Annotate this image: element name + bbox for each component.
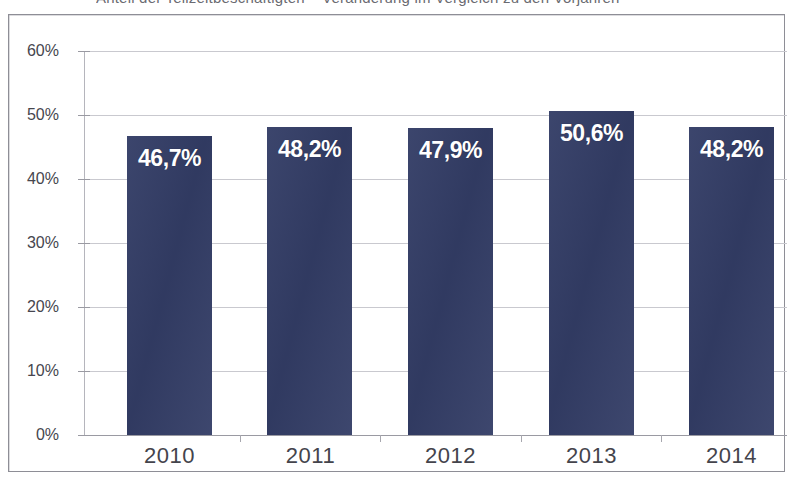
x-category-separator — [240, 435, 241, 442]
plot-area: 0%10%20%30%40%50%60% 46,7%48,2%47,9%50,6… — [84, 51, 787, 435]
bar-value-label: 48,2% — [267, 136, 352, 163]
y-tick-label: 0% — [0, 426, 59, 444]
x-category-separator — [380, 435, 381, 442]
y-tick-label: 20% — [0, 298, 59, 316]
chart-frame: 0%10%20%30%40%50%60% 46,7%48,2%47,9%50,6… — [8, 14, 785, 472]
chart-title: Anteil der Teilzeitbeschäftigten – Verän… — [96, 0, 716, 6]
x-tick-label: 2014 — [661, 443, 792, 469]
y-tick-mark — [78, 243, 90, 244]
y-tick-label: 60% — [0, 42, 59, 60]
gridline — [84, 115, 787, 116]
y-tick-mark — [78, 307, 90, 308]
bar: 48,2% — [689, 127, 774, 435]
bar-value-label: 50,6% — [549, 120, 634, 147]
bar: 50,6% — [549, 111, 634, 435]
chart-title-strip: Anteil der Teilzeitbeschäftigten – Verän… — [0, 0, 792, 13]
x-category-separator — [661, 435, 662, 442]
y-tick-label: 10% — [0, 362, 59, 380]
y-tick-label: 50% — [0, 106, 59, 124]
bar-value-label: 47,9% — [408, 137, 493, 164]
bar: 46,7% — [127, 136, 212, 435]
x-category-separator — [521, 435, 522, 442]
y-tick-label: 30% — [0, 234, 59, 252]
x-axis-line — [84, 435, 787, 436]
y-tick-mark — [78, 435, 90, 436]
x-tick-label: 2010 — [99, 443, 240, 469]
y-tick-mark — [78, 179, 90, 180]
y-tick-mark — [78, 371, 90, 372]
bar-value-label: 46,7% — [127, 145, 212, 172]
bar-value-label: 48,2% — [689, 136, 774, 163]
x-tick-label: 2013 — [521, 443, 662, 469]
bar: 47,9% — [408, 128, 493, 435]
x-tick-label: 2011 — [240, 443, 381, 469]
y-tick-mark — [78, 115, 90, 116]
y-tick-label: 40% — [0, 170, 59, 188]
x-tick-label: 2012 — [380, 443, 521, 469]
y-tick-mark — [78, 51, 90, 52]
gridline — [84, 51, 787, 52]
bar: 48,2% — [267, 127, 352, 435]
